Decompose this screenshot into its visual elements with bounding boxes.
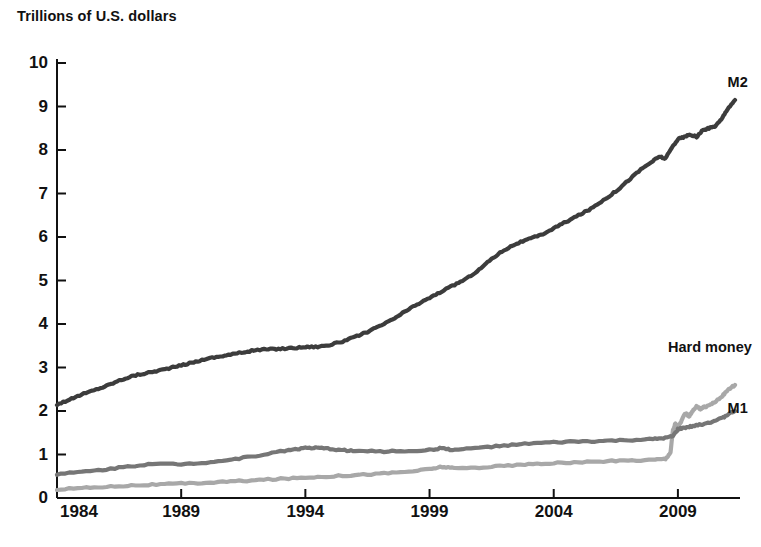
x-tick-label: 1994	[286, 502, 324, 522]
y-tick-label: 4	[14, 314, 48, 334]
series-line-hard-money	[57, 385, 735, 490]
series-line-m2	[57, 100, 735, 405]
x-tick-label: 2004	[535, 502, 573, 522]
y-tick-label: 9	[14, 97, 48, 117]
series-line-m1	[57, 411, 735, 475]
y-tick-label: 0	[14, 488, 48, 508]
series-label-m2: M2	[728, 74, 748, 90]
y-tick-label: 7	[14, 184, 48, 204]
y-tick-label: 8	[14, 140, 48, 160]
chart-series-group	[57, 100, 735, 490]
y-tick-label: 1	[14, 445, 48, 465]
x-tick-label: 1989	[162, 502, 200, 522]
series-label-m1: M1	[728, 400, 748, 416]
y-tick-label: 3	[14, 358, 48, 378]
chart-axes	[57, 59, 740, 498]
y-tick-label: 2	[14, 401, 48, 421]
x-tick-label: 1999	[411, 502, 449, 522]
x-tick-label: 2009	[659, 502, 697, 522]
x-tick-label: 1984	[60, 502, 98, 522]
y-tick-label: 6	[14, 227, 48, 247]
chart-plot-area	[0, 0, 761, 547]
y-tick-label: 10	[14, 53, 48, 73]
series-label-hard-money: Hard money	[668, 339, 752, 355]
chart-figure: { "chart_data": { "type": "line", "title…	[0, 0, 761, 547]
y-tick-label: 5	[14, 271, 48, 291]
